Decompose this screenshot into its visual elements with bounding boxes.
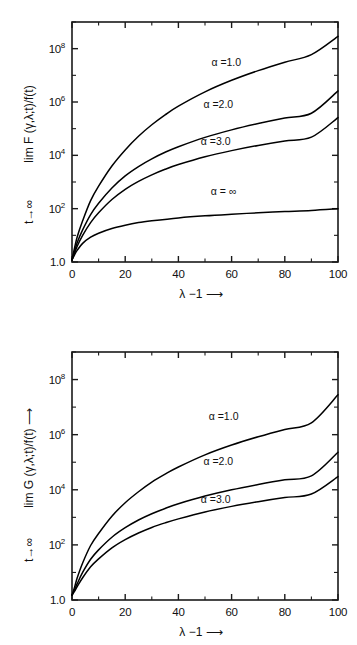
figure-panel-bottom: 0204060801001.0102104106108α =1.0α =2.0α… (0, 320, 357, 645)
y-tick-label-exponent: 4 (61, 147, 66, 156)
x-tick-label: 0 (69, 606, 75, 618)
y-tick-label-base: 10 (49, 429, 61, 441)
plot-frame (72, 352, 338, 600)
y-tick-label: 106 (49, 94, 66, 108)
x-tick-label: 20 (119, 606, 131, 618)
y-tick-label-exponent: 4 (61, 482, 66, 491)
y-tick-label: 1.0 (50, 256, 65, 268)
figure-panel-top: 0204060801001.0102104106108α =1.0α =2.0α… (0, 0, 357, 320)
y-axis-sublabel: t→∞ (22, 200, 36, 224)
chart-svg-top: 0204060801001.0102104106108α =1.0α =2.0α… (0, 0, 357, 320)
y-tick-label-exponent: 6 (61, 94, 66, 103)
y-tick-label-exponent: 2 (61, 201, 66, 210)
y-tick-label-exponent: 6 (61, 427, 66, 436)
x-tick-label: 0 (69, 268, 75, 280)
y-axis-label: lim G (γ,λ;t)/f(t) ⟶ (22, 408, 36, 508)
y-tick-label-base: 1.0 (50, 256, 65, 268)
x-tick-label: 40 (172, 606, 184, 618)
y-tick-label: 104 (49, 147, 66, 161)
y-tick-label-exponent: 2 (61, 537, 66, 546)
curve-label: α =1.0 (211, 56, 241, 68)
x-tick-label: 80 (279, 606, 291, 618)
y-tick-label-base: 10 (49, 484, 61, 496)
x-tick-label: 40 (172, 268, 184, 280)
y-tick-label: 102 (49, 537, 66, 551)
x-tick-label: 80 (279, 268, 291, 280)
data-curve (72, 91, 338, 260)
y-tick-label: 1.0 (50, 594, 65, 606)
x-tick-label: 60 (225, 268, 237, 280)
y-tick-label-base: 10 (49, 374, 61, 386)
y-tick-label-base: 10 (49, 149, 61, 161)
y-tick-label-base: 10 (49, 43, 61, 55)
plot-area-top: 0204060801001.0102104106108α =1.0α =2.0α… (0, 0, 357, 320)
curve-label: α =3.0 (201, 135, 231, 147)
curve-label: α =3.0 (201, 493, 231, 505)
y-tick-label: 108 (49, 41, 66, 55)
y-tick-label-base: 10 (49, 203, 61, 215)
x-tick-label: 100 (329, 606, 347, 618)
curve-label: α =1.0 (209, 410, 239, 422)
y-axis-sublabel: t→∞ (22, 538, 36, 562)
x-tick-label: 100 (329, 268, 347, 280)
y-tick-label: 106 (49, 427, 66, 441)
y-axis-label: lim F (γ,λ;t)/f(t) (22, 85, 36, 162)
plot-area-bottom: 0204060801001.0102104106108α =1.0α =2.0α… (0, 320, 357, 645)
y-tick-label-base: 1.0 (50, 594, 65, 606)
data-curve (72, 452, 338, 595)
data-curve (72, 209, 338, 260)
x-tick-label: 20 (119, 268, 131, 280)
y-tick-label: 104 (49, 482, 66, 496)
x-axis-label: λ −1 ⟶ (179, 287, 222, 301)
data-curve (72, 36, 338, 260)
curve-label: α =2.0 (203, 455, 233, 467)
x-tick-label: 60 (225, 606, 237, 618)
chart-svg-bottom: 0204060801001.0102104106108α =1.0α =2.0α… (0, 320, 357, 645)
curve-label: α = ∞ (211, 185, 237, 197)
y-tick-label: 102 (49, 201, 66, 215)
curve-label: α =2.0 (203, 98, 233, 110)
x-axis-label: λ −1 ⟶ (179, 625, 222, 639)
y-tick-label-base: 10 (49, 96, 61, 108)
y-tick-label: 108 (49, 372, 66, 386)
y-tick-label-exponent: 8 (61, 41, 66, 50)
y-tick-label-base: 10 (49, 539, 61, 551)
y-tick-label-exponent: 8 (61, 372, 66, 381)
